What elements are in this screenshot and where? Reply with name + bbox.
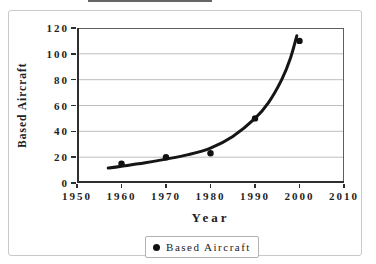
x-tick-mark [165, 184, 167, 188]
x-tick-mark [76, 184, 78, 188]
y-tick-mark [71, 105, 76, 107]
legend: Based Aircraft [145, 236, 259, 258]
chart-screenshot: Based Aircraft Year Based Aircraft 19501… [0, 0, 376, 264]
y-tick-label: 120 [16, 21, 69, 35]
y-tick-mark [71, 156, 76, 158]
data-point [296, 38, 302, 44]
data-point [207, 150, 213, 156]
data-point [118, 160, 124, 166]
y-tick-label: 100 [16, 47, 69, 61]
x-tick-mark [343, 184, 345, 188]
filled-circle-icon [153, 244, 160, 251]
legend-label: Based Aircraft [166, 241, 251, 253]
y-tick-mark [71, 131, 76, 133]
y-tick-label: 60 [16, 99, 69, 113]
data-point [163, 154, 169, 160]
plot-area [77, 28, 344, 183]
x-tick-mark [254, 184, 256, 188]
trend-curve [108, 36, 297, 168]
y-tick-mark [71, 27, 76, 29]
y-tick-label: 20 [16, 150, 69, 164]
y-tick-mark [71, 79, 76, 81]
plot-svg [77, 28, 344, 183]
y-tick-mark [71, 182, 76, 184]
x-tick-label: 2010 [314, 190, 374, 203]
x-axis-title: Year [77, 210, 344, 226]
x-tick-mark [210, 184, 212, 188]
y-tick-label: 0 [16, 176, 69, 190]
y-tick-label: 40 [16, 124, 69, 138]
x-tick-mark [121, 184, 123, 188]
x-tick-mark [299, 184, 301, 188]
scan-artifact-line [88, 0, 212, 2]
y-tick-label: 80 [16, 73, 69, 87]
data-point [252, 115, 258, 121]
y-tick-mark [71, 53, 76, 55]
